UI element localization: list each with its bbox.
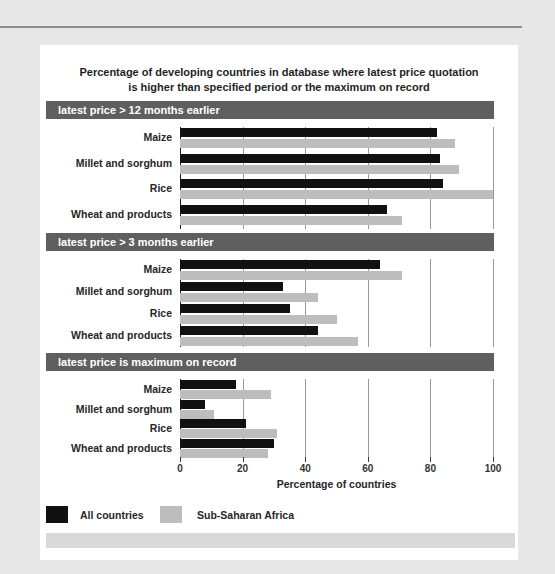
bar-sub-saharan-africa-rice xyxy=(180,190,493,199)
top-rule xyxy=(0,26,522,28)
bar-all-countries-maize xyxy=(180,260,380,269)
tick-mark-100 xyxy=(493,457,494,462)
tick-mark-60 xyxy=(368,457,369,462)
legend-label-sub-saharan-africa: Sub-Saharan Africa xyxy=(197,509,294,521)
bar-all-countries-millet-and-sorghum xyxy=(180,282,283,291)
bar-pair xyxy=(180,154,493,174)
bar-all-countries-millet-and-sorghum xyxy=(180,400,205,409)
section-latest-price-maximum: latest price is maximum on record MaizeM… xyxy=(40,353,518,457)
category-label: Wheat and products xyxy=(40,204,172,224)
figure-page: { "page": { "title_line1": "Percentage o… xyxy=(0,0,555,574)
figure-canvas: Percentage of developing countries in da… xyxy=(0,0,555,574)
bar-pair xyxy=(180,179,493,199)
bar-row: Rice xyxy=(40,418,518,438)
section-header-12-months: latest price > 12 months earlier xyxy=(46,101,494,119)
tick-label-80: 80 xyxy=(425,463,436,474)
bar-sub-saharan-africa-millet-and-sorghum xyxy=(180,293,318,302)
bar-sub-saharan-africa-millet-and-sorghum xyxy=(180,165,459,174)
bar-all-countries-wheat-and-products xyxy=(180,205,387,214)
tick-label-100: 100 xyxy=(485,463,502,474)
bar-pair xyxy=(180,205,493,225)
tick-mark-40 xyxy=(305,457,306,462)
category-label: Rice xyxy=(40,178,172,198)
bar-plot-12-months: MaizeMillet and sorghumRiceWheat and pro… xyxy=(40,127,518,229)
bar-plot-3-months: MaizeMillet and sorghumRiceWheat and pro… xyxy=(40,259,518,347)
bar-sub-saharan-africa-wheat-and-products xyxy=(180,337,358,346)
tick-label-0: 0 xyxy=(177,463,183,474)
section-latest-price-3-months: latest price > 3 months earlier MaizeMil… xyxy=(40,233,518,347)
category-label: Maize xyxy=(40,259,172,279)
bar-row: Rice xyxy=(40,178,518,204)
figure-panel: Percentage of developing countries in da… xyxy=(40,45,518,560)
category-label: Maize xyxy=(40,379,172,399)
category-label: Maize xyxy=(40,127,172,147)
figure-title: Percentage of developing countries in da… xyxy=(40,45,518,95)
tick-label-20: 20 xyxy=(237,463,248,474)
category-label: Millet and sorghum xyxy=(40,153,172,173)
bar-all-countries-rice xyxy=(180,179,443,188)
x-axis-tick-labels: 020406080100 xyxy=(180,463,493,475)
bar-plot-maximum: MaizeMillet and sorghumRiceWheat and pro… xyxy=(40,379,518,457)
bar-sub-saharan-africa-maize xyxy=(180,271,402,280)
category-label: Millet and sorghum xyxy=(40,399,172,419)
legend-swatch-all-countries xyxy=(46,506,68,523)
category-label: Wheat and products xyxy=(40,325,172,345)
bar-sub-saharan-africa-maize xyxy=(180,139,455,148)
bar-pair xyxy=(180,304,493,324)
bar-sub-saharan-africa-wheat-and-products xyxy=(180,216,402,225)
bar-row: Millet and sorghum xyxy=(40,153,518,179)
section-latest-price-12-months: latest price > 12 months earlier MaizeMi… xyxy=(40,101,518,229)
bar-sub-saharan-africa-rice xyxy=(180,315,337,324)
bar-row: Maize xyxy=(40,259,518,281)
bar-row: Wheat and products xyxy=(40,325,518,347)
figure-title-line2: is higher than specified period or the m… xyxy=(40,80,518,95)
legend: All countries Sub-Saharan Africa xyxy=(46,506,518,523)
category-label: Rice xyxy=(40,303,172,323)
tick-label-40: 40 xyxy=(300,463,311,474)
bar-all-countries-wheat-and-products xyxy=(180,326,318,335)
bar-all-countries-rice xyxy=(180,419,246,428)
bar-row: Wheat and products xyxy=(40,204,518,230)
footer-band xyxy=(46,533,515,548)
bar-pair xyxy=(180,282,493,302)
bar-row: Rice xyxy=(40,303,518,325)
category-label: Millet and sorghum xyxy=(40,281,172,301)
bar-pair xyxy=(180,400,493,419)
bar-pair xyxy=(180,128,493,148)
tick-mark-20 xyxy=(243,457,244,462)
x-axis-title: Percentage of countries xyxy=(180,478,493,490)
bar-pair xyxy=(180,380,493,399)
bar-all-countries-wheat-and-products xyxy=(180,439,274,448)
bar-pair xyxy=(180,326,493,346)
tick-label-60: 60 xyxy=(362,463,373,474)
legend-swatch-sub-saharan-africa xyxy=(160,506,182,523)
bar-row: Millet and sorghum xyxy=(40,399,518,419)
bar-row: Millet and sorghum xyxy=(40,281,518,303)
bar-all-countries-rice xyxy=(180,304,290,313)
category-label: Wheat and products xyxy=(40,438,172,458)
bar-pair xyxy=(180,260,493,280)
bar-row: Maize xyxy=(40,379,518,399)
section-header-3-months: latest price > 3 months earlier xyxy=(46,233,494,251)
bar-pair xyxy=(180,419,493,438)
legend-label-all-countries: All countries xyxy=(80,509,160,521)
bar-row: Maize xyxy=(40,127,518,153)
tick-mark-80 xyxy=(430,457,431,462)
tick-mark-0 xyxy=(180,457,181,462)
section-header-maximum: latest price is maximum on record xyxy=(46,353,494,371)
x-axis-ticks xyxy=(180,457,493,462)
bar-pair xyxy=(180,439,493,458)
bar-all-countries-millet-and-sorghum xyxy=(180,154,440,163)
figure-title-line1: Percentage of developing countries in da… xyxy=(40,65,518,80)
bar-all-countries-maize xyxy=(180,380,236,389)
bar-row: Wheat and products xyxy=(40,438,518,458)
bar-all-countries-maize xyxy=(180,128,437,137)
category-label: Rice xyxy=(40,418,172,438)
